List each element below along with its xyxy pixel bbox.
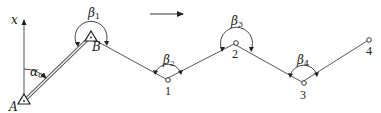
x-axis-label: x [11,13,18,27]
point-1-label: 1 [165,84,171,98]
beta2-label: β2 [162,53,175,68]
beta1-label: β1 [87,6,100,21]
traverse-diagram: x α0 A β1 B β2 1 β3 2 β4 3 4 [0,0,381,113]
point-4-label: 4 [366,44,372,58]
point-3-marker [302,81,307,86]
point-1-marker [166,78,171,83]
point-3-label: 3 [300,88,306,102]
alpha0-label: α0 [30,65,43,80]
traverse-lines [91,38,367,82]
point-2-label: 2 [232,47,238,61]
point-2-marker [234,41,239,46]
beta3-label: β3 [230,14,243,29]
point-A-label: A [8,100,18,113]
beta4-label: β4 [296,53,309,68]
point-B-label: B [91,40,101,54]
point-4-marker [367,38,372,43]
